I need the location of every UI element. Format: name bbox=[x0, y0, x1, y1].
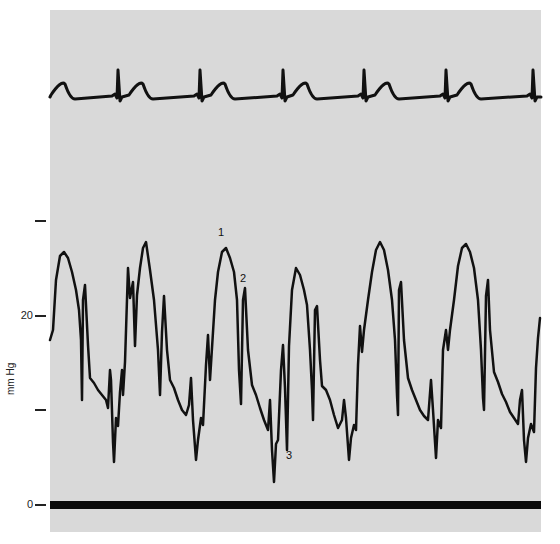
y-tick-label: 20 bbox=[3, 309, 33, 321]
pressure-trace bbox=[50, 242, 540, 482]
y-tick-label: 0 bbox=[3, 498, 33, 510]
y-tick bbox=[35, 315, 46, 317]
waveform-annotation: 3 bbox=[286, 449, 292, 461]
pressure-ecg-recording: 020 mm Hg 123 bbox=[0, 0, 560, 544]
y-axis-label: mm Hg bbox=[5, 363, 16, 395]
waveform-annotation: 2 bbox=[240, 272, 246, 284]
y-tick bbox=[35, 220, 46, 222]
y-tick bbox=[35, 504, 46, 506]
y-tick bbox=[35, 409, 46, 411]
ecg-trace bbox=[50, 70, 541, 101]
plot-area bbox=[0, 0, 560, 544]
waveform-annotation: 1 bbox=[218, 226, 224, 238]
